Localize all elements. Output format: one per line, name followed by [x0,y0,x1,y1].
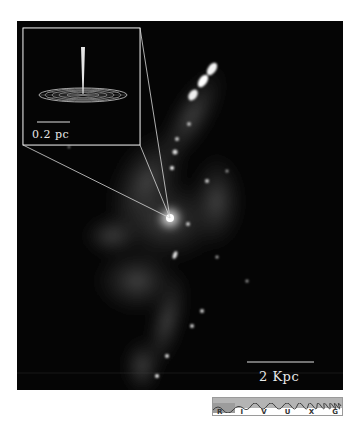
band-i: I [241,408,244,416]
band-u: U [285,408,291,416]
main-scale-label: 2 Kpc [259,369,299,384]
band-v: V [261,408,266,416]
wave-graphic [213,398,342,408]
inset-scale-label: 0.2 pc [32,128,69,141]
galaxy-photo: 0.2 pc 2 Kpc [17,21,343,390]
galaxy-image [17,21,343,390]
rivuxg-spectrum-bar: R I V U X G [212,397,343,416]
band-x: X [309,408,314,416]
band-r: R [217,408,222,416]
band-letters: R I V U X G [213,408,342,416]
band-g: G [332,408,338,416]
